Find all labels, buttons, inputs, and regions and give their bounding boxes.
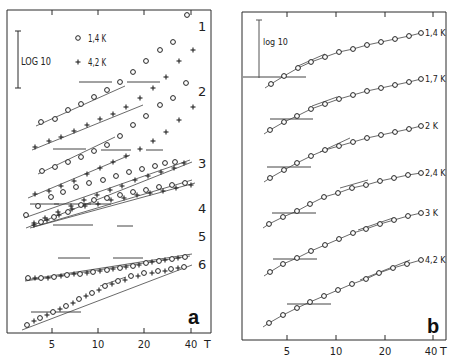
circle-marker-icon xyxy=(131,190,136,195)
circle-marker-icon xyxy=(87,181,92,186)
circle-marker-icon xyxy=(351,231,356,236)
circle-marker-icon xyxy=(364,277,369,282)
circle-marker-icon xyxy=(66,160,71,165)
panel-a-legend: LOG 10 1,4 K 4,2 K xyxy=(15,31,106,88)
legend-label-4-2K: 4,2 K xyxy=(88,57,106,68)
circle-marker-icon xyxy=(140,167,145,172)
panel-b-reference-lines xyxy=(243,77,331,304)
plus-marker-icon xyxy=(191,48,196,53)
plus-marker-icon xyxy=(177,118,182,123)
circle-marker-icon xyxy=(419,171,424,176)
plus-marker-icon xyxy=(191,105,196,110)
circle-marker-icon xyxy=(364,183,369,188)
circle-marker-icon xyxy=(64,304,69,309)
circle-marker-icon xyxy=(144,188,149,193)
circle-marker-icon xyxy=(295,256,300,261)
curve-label-2-4K: 2,4 K xyxy=(425,169,446,178)
circle-marker-icon xyxy=(336,288,341,293)
circle-marker-icon xyxy=(131,70,136,75)
circle-marker-icon xyxy=(90,291,95,296)
plus-marker-icon xyxy=(151,139,156,144)
circle-marker-icon xyxy=(281,262,286,267)
data-curve xyxy=(263,173,421,228)
x-tick-5: 5 xyxy=(49,338,55,351)
curve-label-2K: 2 K xyxy=(425,122,439,131)
plus-marker-icon xyxy=(71,301,76,306)
circle-marker-icon xyxy=(92,198,97,203)
circle-marker-icon xyxy=(157,185,162,190)
circle-marker-icon xyxy=(337,50,342,55)
circle-marker-icon xyxy=(79,102,84,107)
plus-marker-icon xyxy=(164,75,169,80)
circle-marker-icon xyxy=(36,204,41,209)
data-curve xyxy=(264,126,421,182)
circle-marker-icon xyxy=(393,130,398,135)
circle-marker-icon xyxy=(103,284,108,289)
circle-marker-icon xyxy=(282,120,287,125)
circle-marker-icon xyxy=(337,144,342,149)
circle-marker-icon xyxy=(268,128,273,133)
circle-marker-icon xyxy=(144,59,149,64)
plus-marker-icon xyxy=(111,160,116,165)
circle-marker-icon xyxy=(392,176,397,181)
magnetoresistance-figure: LOG 10 1,4 K 4,2 K 1 2 3 4 5 6 a 5 10 20… xyxy=(0,0,453,361)
curve-label-4: 4 xyxy=(198,201,206,216)
curve-label-1-7K: 1,7 K xyxy=(425,75,446,84)
circle-marker-icon xyxy=(407,80,412,85)
circle-marker-icon xyxy=(267,321,272,326)
circle-marker-icon xyxy=(350,186,355,191)
x-tick-10: 10 xyxy=(92,338,105,351)
fit-line xyxy=(25,254,192,280)
circle-marker-icon xyxy=(92,149,97,154)
circle-marker-icon xyxy=(118,266,123,271)
circle-marker-icon xyxy=(268,176,273,181)
circle-marker-icon xyxy=(156,269,161,274)
x-tick-20: 20 xyxy=(379,345,392,358)
circle-marker-icon xyxy=(377,271,382,276)
plot-frame xyxy=(242,12,446,340)
circle-marker-icon xyxy=(419,124,424,129)
circle-marker-icon xyxy=(309,60,314,65)
panel-b-frame xyxy=(242,12,446,340)
circle-marker-icon xyxy=(323,55,328,60)
circle-marker-icon xyxy=(406,173,411,178)
circle-marker-icon xyxy=(281,215,286,220)
circle-marker-icon xyxy=(407,34,412,39)
plus-marker-icon xyxy=(47,189,52,194)
circle-marker-icon xyxy=(158,103,163,108)
curve-label-2: 2 xyxy=(198,84,206,99)
circle-marker-icon xyxy=(39,220,44,225)
plus-marker-icon xyxy=(96,202,101,207)
circle-marker-icon xyxy=(169,267,174,272)
circle-marker-icon xyxy=(407,127,412,132)
plus-marker-icon xyxy=(84,294,89,299)
circle-marker-icon xyxy=(419,77,424,82)
circle-marker-icon xyxy=(118,134,123,139)
circle-marker-icon xyxy=(378,179,383,184)
panel-b-letter: b xyxy=(427,315,439,337)
circle-marker-icon xyxy=(52,275,57,280)
circle-marker-icon xyxy=(378,222,383,227)
circle-marker-icon xyxy=(282,74,287,79)
circle-marker-icon xyxy=(323,102,328,107)
circle-marker-icon xyxy=(144,114,149,119)
circle-marker-icon xyxy=(185,13,190,18)
circle-marker-icon xyxy=(419,31,424,36)
circle-marker-icon xyxy=(26,276,31,281)
circle-marker-icon xyxy=(379,133,384,138)
circle-marker-icon xyxy=(295,209,300,214)
panel-b-scale: log 10 xyxy=(256,20,288,78)
scale-label: log 10 xyxy=(263,38,288,47)
plus-marker-icon xyxy=(163,269,168,274)
circle-marker-icon xyxy=(157,259,162,264)
circle-marker-icon xyxy=(393,37,398,42)
x-axis-label: T xyxy=(203,338,211,351)
circle-marker-icon xyxy=(61,190,66,195)
plus-marker-icon xyxy=(138,96,143,101)
circle-marker-icon xyxy=(39,276,44,281)
circle-marker-icon xyxy=(142,271,147,276)
circle-marker-icon xyxy=(105,88,110,93)
x-tick-40: 40 xyxy=(425,345,438,358)
circle-marker-icon xyxy=(158,48,163,53)
data-curve xyxy=(263,260,421,327)
